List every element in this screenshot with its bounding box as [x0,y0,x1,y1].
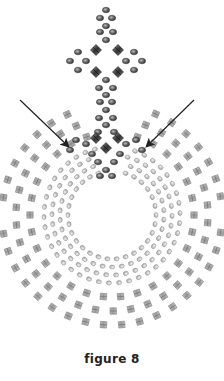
seed-bead [153,264,160,271]
seed-bead [102,122,109,128]
seed-bead [49,243,55,250]
bicone-bead [89,303,102,316]
bicone-bead [42,140,51,149]
seed-bead [67,243,73,250]
bicone-bead [193,142,203,152]
bicone-bead [125,303,137,315]
seed-bead [144,186,150,193]
seed-bead [59,198,64,204]
seed-bead [130,49,137,55]
seed-bead [96,15,103,21]
seed-bead [108,99,115,105]
bicone-bead [192,165,203,176]
seed-bead [159,198,164,204]
figure-caption: figure 8 [0,352,224,366]
seed-bead [108,173,115,179]
bicone-bead [2,245,14,257]
bicone-bead [181,243,193,255]
seed-bead [156,235,162,242]
seed-bead [161,217,166,223]
seed-bead [109,115,116,121]
seed-bead [47,184,53,190]
seed-bead [82,150,88,156]
bicone-bead [52,271,61,280]
bicone-bead [20,168,31,179]
bicone-bead [30,153,40,163]
bicone-bead [201,199,214,212]
bead-layer [0,108,224,331]
bicone-bead [57,292,68,303]
seed-bead [76,272,83,278]
seed-bead [42,204,47,210]
bicone-bead [31,176,43,188]
seed-bead [141,263,148,269]
bicone-bead [31,243,43,255]
seed-bead [87,250,94,256]
bicone-bead [33,292,42,301]
seed-bead [102,77,109,83]
seed-bead [138,244,145,251]
bicone-bead [43,282,53,292]
seed-bead [132,148,138,154]
bicone-bead [114,290,127,303]
seed-bead [73,238,79,245]
bicone-bead [115,318,128,331]
bicone-bead [9,158,20,169]
pointer-arrow [147,100,194,146]
bicone-bead [203,157,214,168]
bicone-bead [142,298,154,310]
seed-bead [74,173,81,180]
seed-bead [131,174,138,180]
seed-bead [152,203,157,209]
bicone-bead [162,271,171,280]
seed-bead [135,275,141,281]
bicone-bead [81,287,93,299]
bicone-bead [214,190,224,203]
seed-bead [59,226,64,232]
center-motif [66,7,145,179]
seed-bead [81,256,88,262]
seed-bead [74,67,81,73]
seed-bead [66,212,70,217]
seed-bead [166,248,172,255]
bicone-bead [210,173,222,185]
bicone-bead [10,219,23,232]
seed-bead [69,194,75,200]
bicone-bead [113,67,124,78]
bicone-bead [61,109,73,121]
seed-bead [66,147,73,153]
bicone-bead [72,299,84,311]
seed-bead [166,232,172,238]
bicone-bead [14,236,26,248]
seed-bead [82,58,89,64]
bicone-bead [193,251,204,262]
seed-bead [84,267,90,273]
seed-bead [57,182,63,189]
seed-bead [50,201,55,207]
seed-bead [136,256,143,262]
bicone-bead [20,143,30,153]
seed-bead [114,256,120,261]
bicone-bead [55,129,66,140]
seed-bead [154,212,158,217]
seed-bead [159,226,164,232]
seed-bead [144,270,151,276]
bicone-bead [183,151,193,161]
bicone-bead [158,291,169,302]
seed-bead [162,184,168,191]
bicone-bead [47,302,58,313]
seed-bead [168,223,173,229]
seed-bead [42,214,46,219]
seed-bead [169,180,175,187]
seed-bead [74,250,81,257]
pointer-arrow [20,100,68,146]
seed-bead [86,276,92,282]
seed-bead [100,264,106,269]
seed-bead [74,49,81,55]
seed-bead [128,260,134,266]
bicone-bead [41,258,51,268]
seed-bead [125,154,131,159]
seed-bead [85,157,91,163]
bicone-bead [21,278,31,288]
bicone-bead [214,226,224,239]
